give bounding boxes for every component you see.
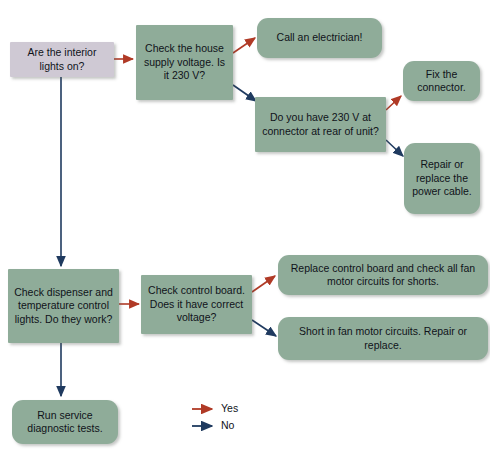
node-check-control-board[interactable]: Check control board. Does it have correc… [141,275,252,334]
edge-controlboard-to-shortfan [252,320,276,336]
flowchart-canvas: Are the interior lights on? Check the ho… [0,0,490,455]
edge-connector-to-powercable [386,140,403,156]
node-replace-control-board[interactable]: Replace control board and check all fan … [278,255,488,295]
node-label: Short in fan motor circuits. Repair or r… [283,325,483,352]
edge-supply-to-electrician [233,38,255,53]
node-check-dispenser-and-temperature-control-lights[interactable]: Check dispenser and temperature control … [8,269,119,343]
node-are-interior-lights-on[interactable]: Are the interior lights on? [10,42,114,77]
node-label: Check control board. Does it have correc… [146,284,247,325]
node-repair-or-replace-power-cable[interactable]: Repair or replace the power cable. [404,143,480,214]
node-label: Replace control board and check all fan … [283,262,483,289]
node-label: Check the house supply voltage. Is it 23… [141,42,228,83]
node-fix-the-connector[interactable]: Fix the connector. [403,61,480,101]
node-run-service-diagnostic-tests[interactable]: Run service diagnostic tests. [12,400,118,444]
node-label: Run service diagnostic tests. [17,409,113,436]
node-do-you-have-230v-at-connector[interactable]: Do you have 230 V at connector at rear o… [255,97,386,152]
node-label: Repair or replace the power cable. [409,158,475,199]
node-label: Check dispenser and temperature control … [13,286,114,327]
edge-supply-to-connector [233,85,256,101]
legend-yes-label: Yes [221,402,238,414]
node-label: Are the interior lights on? [15,46,109,73]
node-label: Fix the connector. [408,68,475,95]
legend-no-label: No [221,419,234,431]
node-label: Call an electrician! [262,31,377,45]
node-check-house-supply-voltage[interactable]: Check the house supply voltage. Is it 23… [136,25,233,100]
node-label: Do you have 230 V at connector at rear o… [260,111,381,138]
node-short-in-fan-motor-circuits[interactable]: Short in fan motor circuits. Repair or r… [278,317,488,360]
node-call-an-electrician[interactable]: Call an electrician! [257,18,382,58]
edge-controlboard-to-replaceboard [252,276,275,292]
edge-connector-to-fixconnector [386,96,401,110]
